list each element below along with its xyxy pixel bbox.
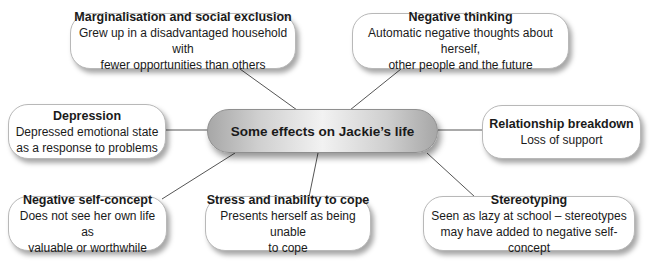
connector-marginalisation [240,69,297,110]
node-stereotyping: Stereotyping Seen as lazy at school – st… [423,196,635,251]
node-title: Depression [53,108,121,124]
node-title: Negative self-concept [23,192,152,208]
node-description-line: Does not see her own life as [15,208,160,240]
node-title: Negative thinking [408,9,512,25]
node-description-line: fewer opportunities than others [101,57,266,73]
connector-negative-thinking [350,69,401,110]
node-negative-self-concept: Negative self-concept Does not see her o… [8,196,167,251]
node-title: Relationship breakdown [489,116,633,132]
node-description-line: to cope [268,240,307,256]
node-description-line: Presents herself as being unable [212,208,364,240]
node-title: Marginalisation and social exclusion [74,9,291,25]
node-title: Stress and inability to cope [207,192,370,208]
connector-stereotyping [427,153,475,197]
central-topic: Some effects on Jackie’s life [207,109,438,153]
node-marginalisation: Marginalisation and social exclusion Gre… [70,13,296,69]
node-description-line: Depressed emotional state [16,124,159,140]
node-description-line: other people and the future [388,57,532,73]
node-description-line: may have added to negative self-concept [430,224,628,256]
central-topic-title: Some effects on Jackie’s life [231,124,414,139]
connector-stress [309,153,318,197]
node-negative-thinking: Negative thinking Automatic negative tho… [352,13,569,69]
node-description-line: Loss of support [520,132,602,148]
node-relationship-breakdown: Relationship breakdown Loss of support [482,105,641,159]
node-description-line: Seen as lazy at school – stereotypes [431,208,626,224]
node-title: Stereotyping [491,192,567,208]
node-stress: Stress and inability to cope Presents he… [205,196,371,251]
node-description-line: Automatic negative thoughts about hersel… [359,25,562,57]
node-description-line: Grew up in a disadvantaged household wit… [77,25,289,57]
node-description-line: valuable or worthwhile [28,240,147,256]
node-depression: Depression Depressed emotional state as … [8,104,166,159]
node-description-line: as a response to problems [16,140,157,156]
